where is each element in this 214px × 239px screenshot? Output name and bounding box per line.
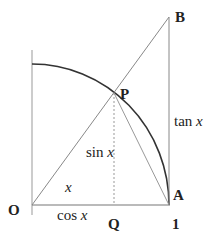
sin-fn: sin bbox=[86, 144, 104, 160]
point-P-label: P bbox=[120, 87, 129, 102]
point-O-label: O bbox=[8, 203, 20, 218]
unit-circle-arc bbox=[32, 64, 169, 205]
cos-fn: cos bbox=[57, 207, 77, 223]
tan-fn: tan bbox=[174, 113, 192, 129]
cos-var: x bbox=[81, 207, 88, 223]
line-OB bbox=[32, 17, 169, 205]
sin-x-label: sin x bbox=[86, 145, 114, 160]
angle-x-label: x bbox=[65, 180, 72, 195]
point-A-label: A bbox=[173, 188, 184, 203]
point-Q-label: Q bbox=[108, 217, 120, 232]
point-B-label: B bbox=[175, 10, 185, 25]
tan-x-label: tan x bbox=[174, 114, 203, 129]
sin-var: x bbox=[107, 144, 114, 160]
point-one-label: 1 bbox=[172, 217, 180, 232]
chord-PA bbox=[114, 93, 169, 205]
angle-var: x bbox=[65, 179, 72, 195]
cos-x-label: cos x bbox=[57, 208, 87, 223]
unit-circle-diagram: B P A O Q 1 tan x sin x x cos x bbox=[0, 0, 214, 239]
tan-var: x bbox=[196, 113, 203, 129]
